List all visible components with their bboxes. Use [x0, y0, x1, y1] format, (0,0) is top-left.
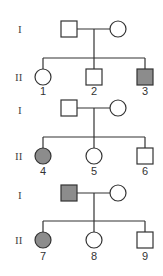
individual-label: 7 — [40, 250, 46, 262]
individual-label: 6 — [142, 165, 148, 177]
pedigree-3: I II 7 8 9 — [15, 185, 153, 262]
pedigree-diagram: I II 1 2 3 I II 4 5 6 — [0, 0, 163, 276]
individual-9-unaffected-male — [137, 232, 153, 248]
individual-label: 1 — [40, 85, 46, 97]
individual-3-affected-male — [137, 69, 153, 85]
generation-label-II: II — [15, 71, 23, 83]
generation-label-II: II — [15, 150, 23, 162]
generation-label-I: I — [18, 23, 22, 35]
individual-label: 5 — [91, 165, 97, 177]
mother-unaffected-female — [110, 185, 126, 201]
individual-label: 8 — [91, 250, 97, 262]
pedigree-1: I II 1 2 3 — [15, 21, 153, 97]
generation-label-I: I — [18, 104, 22, 116]
individual-6-unaffected-male — [137, 148, 153, 164]
pedigree-2: I II 4 5 6 — [15, 100, 153, 177]
mother-unaffected-female — [110, 100, 126, 116]
individual-1-unaffected-female — [35, 69, 51, 85]
individual-5-unaffected-female — [86, 148, 102, 164]
generation-label-II: II — [15, 234, 23, 246]
father-unaffected-male — [61, 100, 77, 116]
mother-unaffected-female — [110, 21, 126, 37]
father-unaffected-male — [61, 21, 77, 37]
individual-label: 3 — [142, 85, 148, 97]
individual-2-unaffected-male — [86, 69, 102, 85]
individual-8-unaffected-female — [86, 232, 102, 248]
individual-4-affected-female — [35, 148, 51, 164]
individual-label: 9 — [142, 250, 148, 262]
generation-label-I: I — [18, 189, 22, 201]
individual-label: 2 — [91, 85, 97, 97]
individual-label: 4 — [40, 165, 46, 177]
individual-7-affected-female — [35, 232, 51, 248]
father-affected-male — [61, 185, 77, 201]
